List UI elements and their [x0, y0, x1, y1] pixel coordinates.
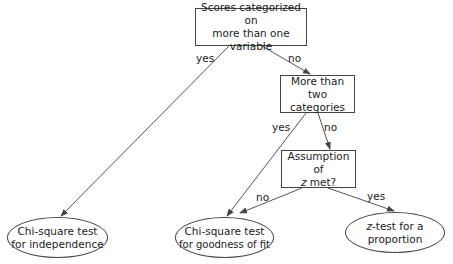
node-text-line1: Scores categorized on	[196, 1, 306, 27]
edge-label-q2-yes: yes	[272, 121, 290, 133]
node-text-line2: two categories	[281, 88, 354, 114]
node-text-line1: Assumption of	[282, 150, 355, 176]
decision-node-more-than-two-categories: More than two categories	[280, 75, 355, 113]
decision-node-assumption-z: Assumption of z met?	[281, 150, 356, 188]
node-text-line1: Chi-square test	[18, 225, 98, 238]
node-text-line1: Chi-square test	[185, 225, 265, 238]
edge-q1-r1	[61, 46, 229, 216]
edge-label-q1-yes: yes	[196, 52, 214, 64]
result-node-chi-square-goodness-of-fit: Chi-square test for goodness of fit	[175, 217, 274, 258]
node-text-line2: proportion	[368, 233, 423, 246]
decision-node-multiple-variables: Scores categorized on more than one vari…	[195, 8, 307, 46]
node-text-line2: for goodness of fit	[179, 238, 270, 251]
result-node-z-test-proportion: z-test for a proportion	[345, 212, 445, 253]
node-text-line2: z met?	[301, 176, 336, 189]
node-text-line2: for independence	[11, 238, 103, 251]
result-node-chi-square-independence: Chi-square test for independence	[7, 217, 108, 258]
edge-label-q3-no: no	[256, 191, 269, 203]
node-text-line1: More than	[291, 75, 344, 88]
edge-q3-r2	[240, 188, 302, 213]
node-text-line2: more than one variable	[196, 27, 306, 53]
edge-label-q2-no: no	[324, 121, 337, 133]
node-text-line1: z-test for a	[366, 220, 423, 233]
edge-label-q3-yes: yes	[367, 190, 385, 202]
edge-label-q1-no: no	[288, 52, 301, 64]
